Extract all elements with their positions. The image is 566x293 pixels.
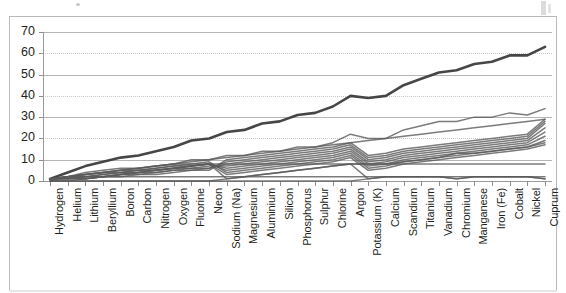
x-axis-category-label: Carbon bbox=[142, 188, 153, 223]
y-axis-tick-label: 70 bbox=[5, 25, 35, 38]
y-axis-tick-label: 0 bbox=[5, 174, 35, 187]
x-axis-category-label: Cuprum bbox=[549, 188, 560, 227]
plot-series-area bbox=[43, 32, 552, 182]
x-axis-category-label: Argon bbox=[355, 188, 366, 217]
scan-edge-artifact-bottom bbox=[9, 290, 557, 292]
x-axis-category-label: Boron bbox=[125, 188, 136, 217]
x-axis-category-label: Titanium bbox=[425, 188, 436, 229]
x-axis-category-label: Scandium bbox=[408, 188, 419, 236]
x-axis-labels: HydrogenHeliumLithiumBerylliumBoronCarbo… bbox=[43, 188, 552, 284]
scan-edge-artifact-top-right-2 bbox=[548, 4, 551, 13]
x-axis-category-label: Neon bbox=[213, 188, 224, 214]
x-axis-category-label: Potassium (K) bbox=[372, 188, 383, 256]
x-axis-category-label: Calcium bbox=[390, 188, 401, 227]
chart-root: 706050403020100 HydrogenHeliumLithiumBer… bbox=[0, 0, 566, 293]
x-axis-category-label: Silicon bbox=[284, 188, 295, 220]
x-axis-category-label: Phosphorus bbox=[302, 188, 313, 246]
x-axis-category-label: Nickel bbox=[531, 188, 542, 217]
x-axis-category-label: Lithium bbox=[89, 188, 100, 223]
y-axis-tick-label: 40 bbox=[5, 89, 35, 102]
x-axis-category-label: Manganese bbox=[478, 188, 489, 245]
x-axis-category-label: Sulphur bbox=[319, 188, 330, 225]
y-axis-tick-label: 20 bbox=[5, 131, 35, 144]
y-axis-tick-label: 10 bbox=[5, 153, 35, 166]
x-axis-category-label: Vanadium bbox=[443, 188, 454, 236]
x-axis-category-label: Sodium (Na) bbox=[231, 188, 242, 249]
y-axis-tick-label: 30 bbox=[5, 110, 35, 123]
x-axis-category-label: Chromium bbox=[461, 188, 472, 238]
y-axis-tick-label: 60 bbox=[5, 46, 35, 59]
x-axis-category-label: Beryllium bbox=[107, 188, 118, 232]
x-axis-category-label: Chlorine bbox=[337, 188, 348, 228]
x-axis-category-label: Nitrogen bbox=[160, 188, 171, 229]
x-axis-category-label: Oxygen bbox=[178, 188, 189, 225]
x-axis-category-label: Hydrogen bbox=[54, 188, 65, 235]
x-axis-category-label: Magnesium bbox=[248, 188, 259, 244]
x-axis-category-label: Fluorine bbox=[195, 188, 206, 227]
x-axis-category-label: Aluminium bbox=[266, 188, 277, 238]
x-axis-category-label: Cobalt bbox=[514, 188, 525, 219]
scan-speckle-artifact bbox=[76, 3, 80, 6]
x-axis-category-label: Helium bbox=[72, 188, 83, 222]
y-axis-tick-label: 50 bbox=[5, 68, 35, 81]
x-axis-category-label: Iron (Fe) bbox=[496, 188, 507, 229]
scan-edge-artifact-top-right bbox=[541, 1, 546, 15]
